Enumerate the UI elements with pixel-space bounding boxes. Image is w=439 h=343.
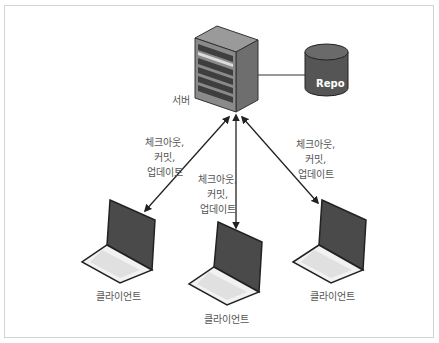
edge-label-right: 체크아웃, 커밋, 업데이트: [296, 137, 335, 182]
server-rack-icon: [195, 26, 258, 112]
edge-label-line: 업데이트: [296, 167, 335, 182]
edge-label-line: 커밋,: [145, 150, 184, 165]
client-label-right: 클라이언트: [310, 289, 355, 304]
edge-label-middle: 체크아웃, 커밋, 업데이트: [198, 172, 237, 217]
laptop-icon: [293, 200, 366, 283]
client-label-middle: 클라이언트: [204, 312, 249, 327]
client-label-left: 클라이언트: [96, 289, 141, 304]
laptop-icon: [82, 200, 155, 283]
edge-label-left: 체크아웃, 커밋, 업데이트: [145, 135, 184, 180]
repo-label: Repo: [316, 76, 345, 91]
edge-label-line: 업데이트: [198, 202, 237, 217]
server-label: 서버: [172, 93, 190, 108]
edge-label-line: 체크아웃,: [145, 135, 184, 150]
edge-label-line: 체크아웃,: [198, 172, 237, 187]
edge-label-line: 체크아웃,: [296, 137, 335, 152]
edge-label-line: 커밋,: [296, 152, 335, 167]
edge-label-line: 커밋,: [198, 187, 237, 202]
edge-label-line: 업데이트: [145, 165, 184, 180]
laptop-icon: [189, 222, 262, 305]
